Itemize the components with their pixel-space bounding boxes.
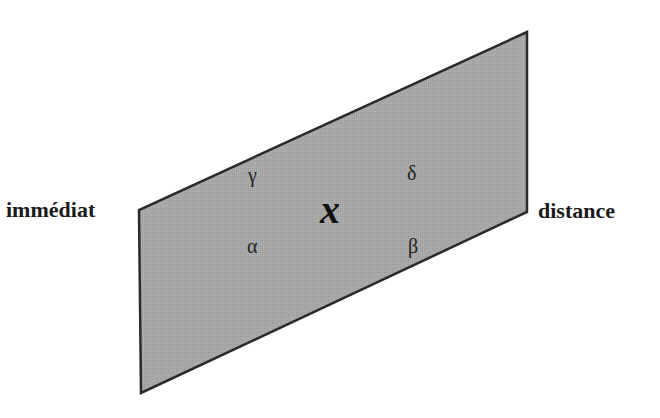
quadrant-label-gamma: γ [248, 165, 257, 185]
quadrant-label-alpha: α [247, 236, 257, 256]
right-axis-label-distance: distance [538, 200, 615, 222]
quadrant-label-beta: β [408, 236, 418, 256]
quadrant-label-delta: δ [407, 163, 416, 183]
diagram-canvas: immédiat distance γ δ α β x [0, 0, 660, 418]
left-axis-label-immediat: immédiat [6, 199, 95, 221]
center-variable-x: x [320, 190, 340, 230]
